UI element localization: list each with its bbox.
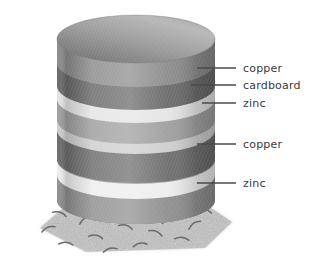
pile-body bbox=[57, 15, 215, 230]
label-cardboard-text: cardboard bbox=[243, 79, 301, 92]
voltaic-pile-figure: coppercardboardzinccopperzinc bbox=[0, 0, 318, 256]
label-zinc-lower-text: zinc bbox=[243, 177, 266, 190]
label-copper-top-text: copper bbox=[243, 62, 283, 75]
label-copper-lower-text: copper bbox=[243, 138, 283, 151]
label-zinc-upper-text: zinc bbox=[243, 97, 266, 110]
figure-canvas: coppercardboardzinccopperzinc bbox=[0, 0, 318, 256]
